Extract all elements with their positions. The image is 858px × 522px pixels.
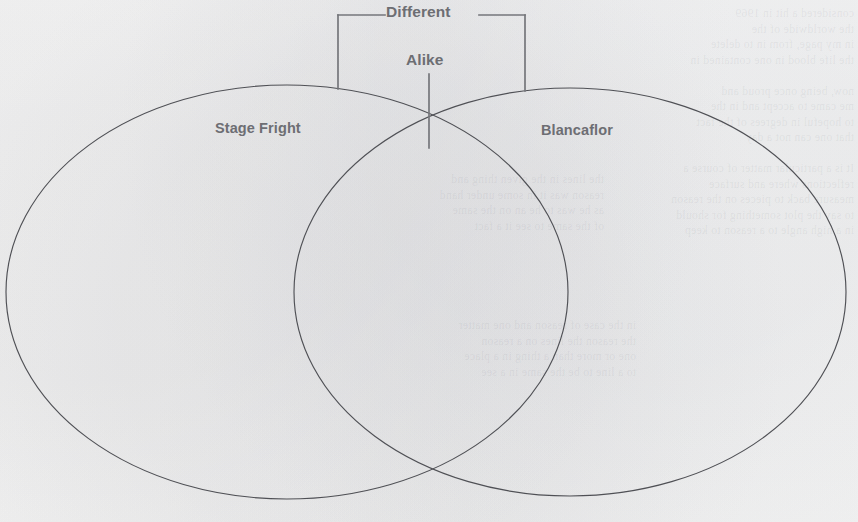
- label-blancaflor: Blancaflor: [541, 122, 613, 138]
- label-stage-fright: Stage Fright: [215, 120, 301, 136]
- venn-diagram-canvas: [0, 0, 858, 522]
- label-different: Different: [386, 3, 451, 21]
- venn-diagram-worksheet: considered a hit in 1969 the worldwide o…: [0, 0, 858, 522]
- label-alike: Alike: [406, 51, 444, 69]
- venn-circle-left-stage-fright[interactable]: [6, 85, 568, 499]
- venn-circle-right-blancaflor[interactable]: [294, 88, 846, 496]
